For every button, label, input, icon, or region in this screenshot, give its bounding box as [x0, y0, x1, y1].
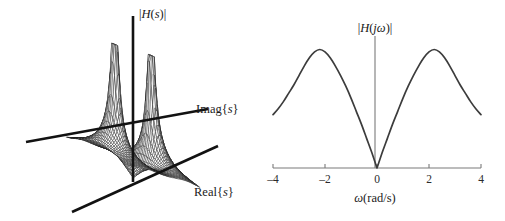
x-tick-label: –2 [318, 173, 331, 185]
x-tick-label: –4 [266, 173, 279, 185]
label-magnitude-Hs: |H(s)| [139, 7, 166, 21]
surface-plot-panel: |H(s)| Imag{s} Real{s} [0, 0, 253, 221]
figure-root: |H(s)| Imag{s} Real{s} –4–2024 |H(jω)| [0, 0, 505, 221]
magnitude-curve [273, 49, 481, 168]
magnitude-response-panel: –4–2024 |H(jω)| ω(rad/s) [253, 0, 505, 221]
label-axis-real: Real{s} [194, 185, 234, 199]
x-tick-label: 2 [426, 173, 432, 185]
surface-plot-svg: |H(s)| Imag{s} Real{s} [0, 0, 253, 221]
x-tick-label: 0 [374, 173, 380, 185]
label-axis-imag: Imag{s} [196, 102, 239, 116]
label-magnitude-Hjw: |H(jω)| [358, 21, 393, 35]
magnitude-response-svg: –4–2024 |H(jω)| ω(rad/s) [253, 0, 505, 221]
x-axis-tick-labels: –4–2024 [266, 173, 484, 185]
label-x-axis-omega: ω(rad/s) [354, 191, 395, 205]
x-tick-label: 4 [478, 173, 484, 185]
